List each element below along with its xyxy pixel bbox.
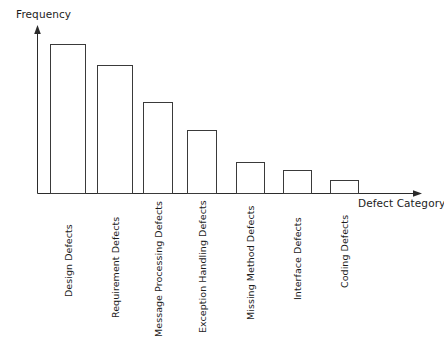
- y-axis-label: Frequency: [16, 8, 71, 20]
- bar-interface-defects: [284, 171, 312, 194]
- category-label-coding-defects: Coding Defects: [339, 215, 350, 288]
- bar-design-defects: [51, 45, 86, 194]
- pareto-chart: Frequency Defect Category Design Defects…: [0, 0, 444, 337]
- bar-missing-method-defects: [237, 163, 265, 194]
- category-label-missing-method-defects: Missing Method Defects: [245, 206, 256, 320]
- bar-exception-handling-defects: [188, 131, 217, 194]
- category-label-exception-handling-defects: Exception Handling Defects: [197, 200, 208, 333]
- bar-coding-defects: [331, 181, 359, 194]
- category-label-message-processing-defects: Message Processing Defects: [153, 201, 164, 337]
- bar-message-processing-defects: [144, 103, 173, 194]
- y-axis-arrowhead: [34, 25, 41, 34]
- category-label-design-defects: Design Defects: [63, 224, 74, 297]
- x-axis-label: Defect Category: [358, 197, 444, 209]
- category-label-requirement-defects: Requirement Defects: [110, 217, 121, 318]
- bar-requirement-defects: [98, 66, 133, 194]
- x-axis-arrowhead: [413, 190, 422, 197]
- category-label-interface-defects: Interface Defects: [292, 217, 303, 300]
- chart-canvas: Frequency Defect Category Design Defects…: [0, 0, 444, 337]
